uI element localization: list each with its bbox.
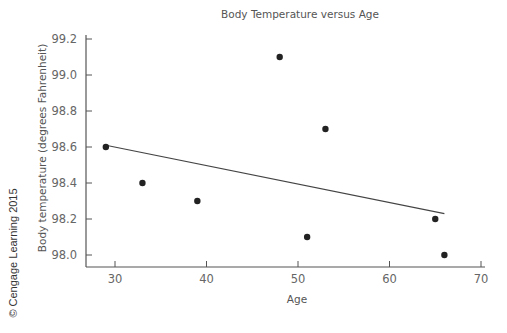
scatter-chart: Body Temperature versus Age 98.098.298.4… <box>0 0 507 333</box>
data-point <box>277 54 283 60</box>
data-point <box>322 126 328 132</box>
y-tick-label: 98.4 <box>51 176 77 190</box>
regression-line <box>106 145 445 213</box>
y-tick-label: 98.2 <box>51 212 77 226</box>
data-points <box>103 54 448 258</box>
copyright-notice: © Cengage Learning 2015 <box>7 188 19 317</box>
data-point <box>304 234 310 240</box>
chart-title: Body Temperature versus Age <box>221 8 379 20</box>
x-axis: 3040506070 <box>86 261 488 286</box>
data-point <box>432 216 438 222</box>
x-ticks: 3040506070 <box>108 261 489 286</box>
regression-line-segment <box>106 145 445 213</box>
y-axis: 98.098.298.498.698.899.099.2 <box>51 32 92 267</box>
y-tick-label: 99.0 <box>51 68 77 82</box>
x-axis-label: Age <box>287 293 307 305</box>
x-tick-label: 50 <box>291 272 306 286</box>
y-tick-label: 98.8 <box>51 104 77 118</box>
data-point <box>139 180 145 186</box>
data-point <box>194 198 200 204</box>
y-tick-label: 98.6 <box>51 140 77 154</box>
x-tick-label: 40 <box>199 272 214 286</box>
data-point <box>441 252 447 258</box>
data-point <box>103 144 109 150</box>
y-tick-label: 98.0 <box>51 248 77 262</box>
x-tick-label: 60 <box>382 272 397 286</box>
y-tick-label: 99.2 <box>51 32 77 46</box>
y-axis-label: Body temperature (degrees Fahrenheit) <box>36 44 48 253</box>
x-tick-label: 30 <box>108 272 123 286</box>
x-tick-label: 70 <box>474 272 489 286</box>
